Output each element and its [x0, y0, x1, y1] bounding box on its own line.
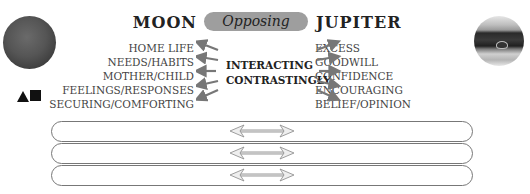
- moon-keywords: HOME LIFE NEEDS/HABITS MOTHER/CHILD FEEL…: [49, 41, 194, 111]
- moon-keyword: FEELINGS/RESPONSES: [49, 83, 194, 97]
- double-arrow-icon: [230, 169, 294, 181]
- center-label-line: INTERACTING: [226, 58, 312, 73]
- relation-pill: Opposing: [204, 12, 308, 31]
- right-arrows: [314, 38, 344, 118]
- arrow-icon: [317, 90, 335, 98]
- double-arrow-icon: [230, 147, 294, 159]
- moon-title: MOON: [133, 13, 197, 32]
- great-red-spot: [496, 41, 508, 49]
- arrow-icon: [200, 43, 218, 50]
- center-label-line: CONTRASTINGLY: [226, 73, 312, 88]
- moon-keyword: MOTHER/CHILD: [49, 69, 194, 83]
- triangle-icon: [17, 91, 29, 102]
- jupiter-icon: [474, 16, 524, 66]
- arrow-icon: [317, 57, 335, 60]
- square-icon: [30, 90, 41, 101]
- moon-keyword: NEEDS/HABITS: [49, 55, 194, 69]
- jupiter-title: JUPITER: [316, 13, 401, 32]
- moon-icon: [3, 16, 56, 69]
- arrow-icon: [317, 43, 335, 50]
- arrow-icon: [200, 57, 218, 60]
- left-arrows: [196, 38, 226, 118]
- double-arrow-icon: [230, 125, 294, 137]
- moon-keyword: HOME LIFE: [49, 41, 194, 55]
- center-label: INTERACTING CONTRASTINGLY: [226, 58, 312, 88]
- moon-keyword: SECURING/COMFORTING: [49, 97, 194, 111]
- band-arrows: [226, 121, 306, 191]
- arrow-icon: [317, 81, 335, 85]
- arrow-icon: [200, 81, 218, 85]
- arrow-icon: [200, 90, 218, 98]
